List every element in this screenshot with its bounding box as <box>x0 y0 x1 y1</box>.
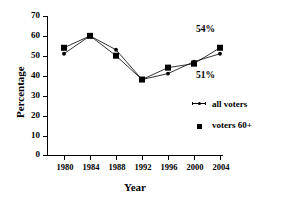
x-tick-1992 <box>142 156 143 160</box>
chart-container: 70 60 50 40 30 20 10 0 1980 1984 1988 19… <box>0 0 298 205</box>
legend-marker-all-voters <box>198 102 201 105</box>
y-tick-label-70: 70 <box>22 11 40 20</box>
y-tick-70 <box>43 16 47 17</box>
x-tick-1988 <box>116 156 117 160</box>
y-tick-label-50: 50 <box>22 51 40 60</box>
x-tick-2004 <box>220 156 221 160</box>
y-tick-60 <box>43 36 47 37</box>
y-tick-50 <box>43 56 47 57</box>
annotation-51-percent: 51% <box>196 70 215 80</box>
x-tick-1996 <box>168 156 169 160</box>
y-tick-label-10: 10 <box>22 131 40 140</box>
y-tick-40 <box>43 76 47 77</box>
legend-marker-voters-60plus <box>197 124 202 129</box>
y-tick-20 <box>43 116 47 117</box>
annotation-54-percent: 54% <box>196 24 215 34</box>
y-tick-label-0: 0 <box>22 150 40 159</box>
y-tick-10 <box>43 136 47 137</box>
y-tick-30 <box>43 96 47 97</box>
x-tick-label-2004: 2004 <box>204 163 238 172</box>
x-tick-2000 <box>194 156 195 160</box>
y-axis-title: Percentage <box>14 66 26 118</box>
x-tick-1984 <box>90 156 91 160</box>
x-axis-title: Year <box>40 181 230 193</box>
legend-label-all-voters: all voters <box>212 99 247 109</box>
y-tick-0 <box>43 155 47 156</box>
y-tick-label-60: 60 <box>22 31 40 40</box>
series-plot-area <box>0 0 298 205</box>
legend-label-voters-60plus: voters 60+ <box>212 120 252 130</box>
legend-cap-right-all-voters <box>205 102 206 105</box>
x-axis-line <box>47 155 223 156</box>
legend-cap-left-all-voters <box>192 102 193 105</box>
x-tick-1980 <box>64 156 65 160</box>
y-axis-line <box>47 16 48 156</box>
